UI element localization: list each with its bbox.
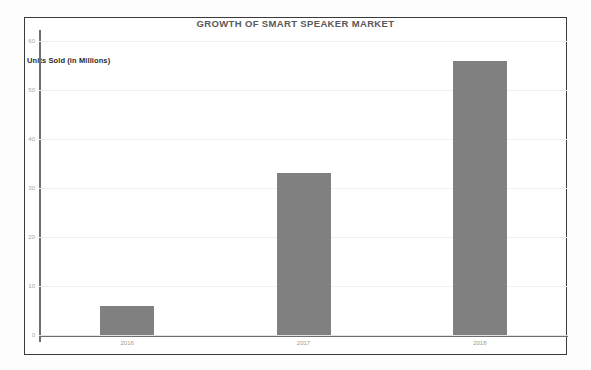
y-axis-tick-label: 20 xyxy=(28,234,35,240)
bar-2016 xyxy=(100,306,154,335)
bar-2017 xyxy=(277,173,331,335)
y-axis-tick-label: 40 xyxy=(28,136,35,142)
bar-2018 xyxy=(453,61,507,335)
gridline xyxy=(39,335,568,336)
y-axis-tick-label: 0 xyxy=(32,332,35,338)
x-axis-tick-label: 2018 xyxy=(473,340,486,346)
x-axis-tick-label: 2017 xyxy=(297,340,310,346)
chart-title: GROWTH OF SMART SPEAKER MARKET xyxy=(25,18,566,29)
y-axis-tick-label: 10 xyxy=(28,283,35,289)
y-axis-tick-label: 30 xyxy=(28,185,35,191)
gridline xyxy=(39,41,568,42)
x-axis-tick-label: 2016 xyxy=(120,340,133,346)
y-axis-tick-label: 50 xyxy=(28,87,35,93)
plot-grid: 0102030405060 xyxy=(39,41,568,335)
y-axis-tick-label: 60 xyxy=(28,38,35,44)
chart-frame: GROWTH OF SMART SPEAKER MARKET Units Sol… xyxy=(24,17,567,355)
